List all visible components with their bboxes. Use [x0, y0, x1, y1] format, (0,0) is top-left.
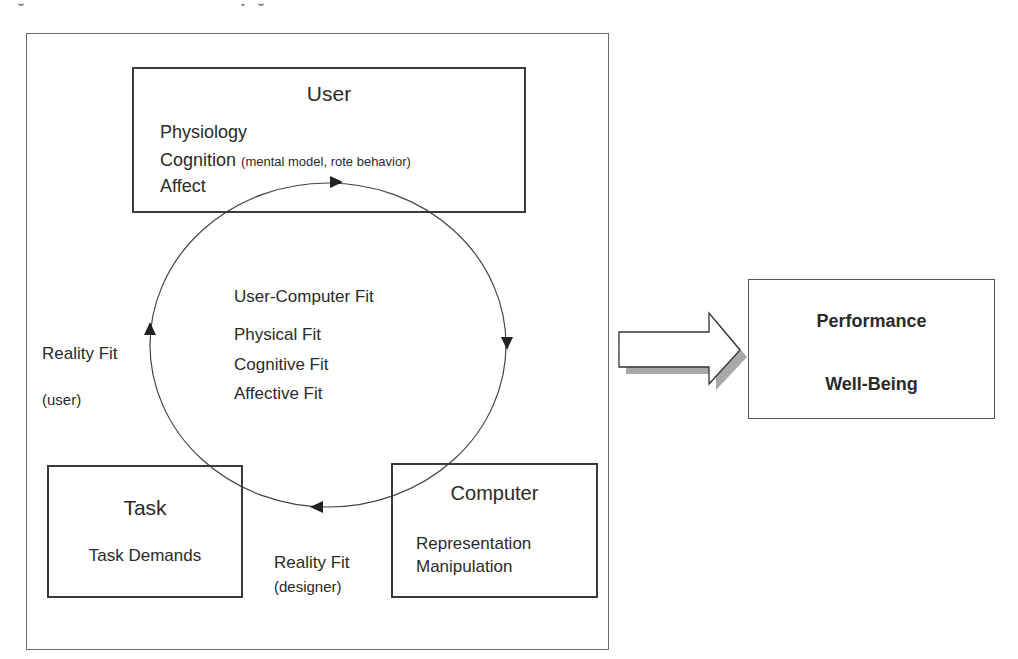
user-item-affect: Affect — [160, 177, 206, 195]
cycle-ellipse — [150, 183, 506, 507]
task-item-demands: Task Demands — [49, 547, 241, 564]
arrow-down-icon — [501, 337, 513, 350]
center-item-physical-fit: Physical Fit — [234, 326, 321, 343]
reality-fit-user-label: Reality Fit — [42, 345, 118, 362]
user-item-cognition-detail: (mental model, rote behavior) — [241, 154, 411, 169]
user-item-cognition: Cognition (mental model, rote behavior) — [160, 151, 411, 169]
task-box: Task Task Demands — [47, 465, 243, 598]
computer-item-manipulation: Manipulation — [416, 558, 512, 575]
reality-fit-user-sub: (user) — [42, 392, 81, 407]
outcome-performance: Performance — [749, 312, 994, 330]
computer-box-title: Computer — [393, 483, 596, 503]
user-box-title: User — [134, 83, 524, 104]
reality-fit-designer-label: Reality Fit — [274, 554, 350, 571]
outcome-box: Performance Well-Being — [748, 279, 995, 419]
user-item-physiology: Physiology — [160, 123, 247, 141]
computer-box: Computer Representation Manipulation — [391, 463, 598, 598]
arrow-up-icon — [144, 322, 156, 335]
user-item-cognition-label: Cognition — [160, 150, 236, 170]
reality-fit-designer-sub: (designer) — [274, 579, 342, 594]
computer-item-representation: Representation — [416, 535, 531, 552]
block-arrow-icon — [619, 313, 747, 390]
task-box-title: Task — [49, 497, 241, 518]
arrow-left-icon — [310, 501, 323, 513]
center-item-cognitive-fit: Cognitive Fit — [234, 356, 328, 373]
center-title: User-Computer Fit — [234, 288, 374, 305]
center-item-affective-fit: Affective Fit — [234, 385, 323, 402]
user-box: User Physiology Cognition (mental model,… — [132, 67, 526, 213]
outcome-well-being: Well-Being — [749, 375, 994, 393]
